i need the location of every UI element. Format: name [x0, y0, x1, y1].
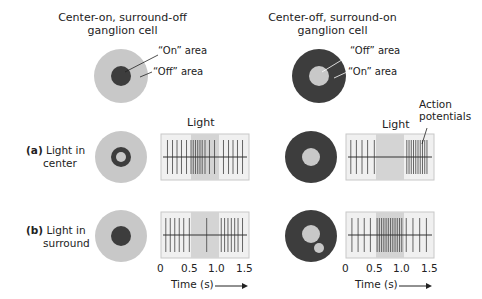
row-a-line2: center [26, 157, 77, 169]
row-b-line1: Light in [46, 224, 85, 236]
time-label-right: Time (s) [355, 278, 398, 290]
tick-0-5: 0.5 [366, 262, 383, 274]
row-a-label: (a) Light in center [26, 144, 85, 170]
a-left-receptive-field [95, 131, 147, 183]
tick-0-5: 0.5 [181, 262, 198, 274]
tick-1-0: 1.0 [393, 262, 410, 274]
tick-0: 0 [157, 262, 164, 274]
right-title-line1: Center-off, surround-on [250, 11, 415, 24]
left-off-area-label: “Off” area [153, 66, 203, 78]
top-right-receptive-field [292, 49, 350, 103]
light-label-right: Light [382, 119, 409, 131]
right-title-line2: ganglion cell [250, 24, 415, 37]
spike-train-chart [346, 212, 434, 258]
spike-train-chart [161, 212, 249, 258]
b-left-receptive-field [95, 210, 147, 262]
tick-1-5: 1.5 [236, 262, 253, 274]
row-b-letter: (b) [26, 224, 43, 236]
spike-train-chart [346, 134, 434, 180]
row-a-line1: Light in [46, 144, 85, 156]
action-line2: potentials [419, 110, 471, 122]
left-title-line1: Center-on, surround-off [40, 11, 205, 24]
time-label-left: Time (s) [171, 278, 214, 290]
action-line1: Action [419, 98, 471, 110]
b-right-receptive-field [285, 210, 337, 262]
action-potentials-label: Action potentials [419, 98, 471, 122]
left-title: Center-on, surround-off ganglion cell [40, 11, 205, 37]
tick-1-0: 1.0 [208, 262, 225, 274]
right-title: Center-off, surround-on ganglion cell [250, 11, 415, 37]
left-title-line2: ganglion cell [40, 24, 205, 37]
a-right-receptive-field [285, 131, 337, 183]
top-left-receptive-field [94, 49, 158, 103]
right-on-area-label: “On” area [348, 66, 397, 78]
light-label-left: Light [187, 117, 214, 129]
tick-1-5: 1.5 [421, 262, 438, 274]
left-on-area-label: “On” area [158, 45, 207, 57]
right-off-area-label: “Off” area [350, 45, 400, 57]
tick-0: 0 [342, 262, 349, 274]
row-b-line2: surround [26, 237, 90, 249]
spike-train-chart [161, 134, 249, 180]
row-b-label: (b) Light in surround [26, 224, 90, 250]
row-a-letter: (a) [26, 144, 43, 156]
